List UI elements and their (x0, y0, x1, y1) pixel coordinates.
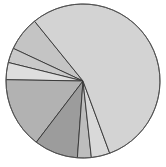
pie-chart (0, 0, 166, 167)
pie-slices (6, 4, 160, 158)
